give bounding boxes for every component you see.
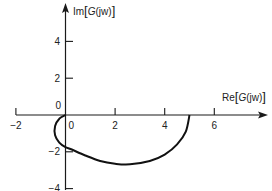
nyquist-plot: −20246 −4−2024 Im[G(jw)] Re[G(jw)]	[0, 0, 272, 191]
y-tick-label: −4	[49, 183, 61, 191]
x-tick-label: 6	[212, 120, 218, 131]
y-tick-label: 4	[54, 36, 60, 47]
x-axis-label: Re[G(jw)]	[222, 89, 266, 104]
nyquist-curve	[55, 115, 190, 165]
y-ticks: −4−2024	[49, 36, 73, 191]
y-axis-label: Im[G(jw)]	[73, 3, 115, 18]
x-tick-label: 0	[69, 120, 75, 131]
x-tick-label: −2	[10, 120, 22, 131]
x-tick-label: 2	[112, 120, 118, 131]
y-tick-label: −2	[49, 146, 61, 157]
y-tick-label: 0	[55, 100, 61, 111]
y-tick-label: 2	[54, 73, 60, 84]
x-tick-label: 4	[162, 120, 168, 131]
